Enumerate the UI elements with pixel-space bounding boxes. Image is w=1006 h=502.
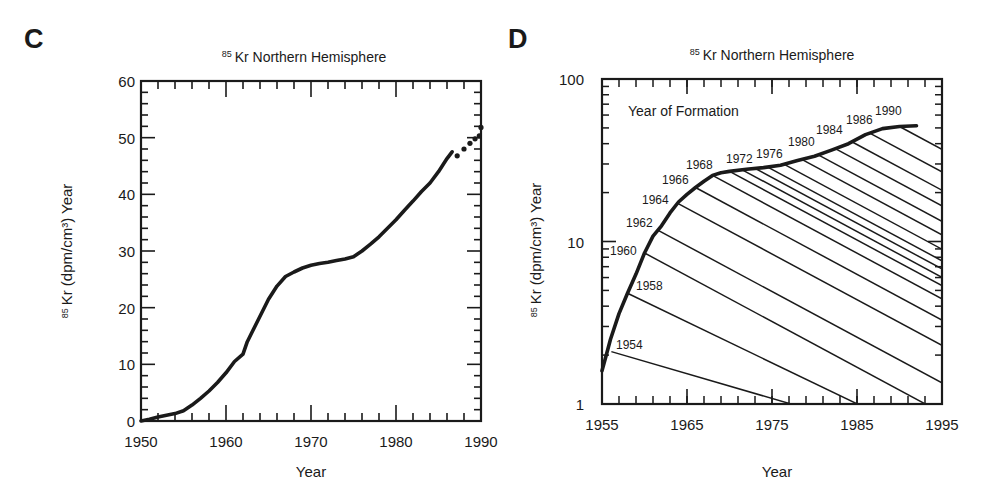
chart-d-annotation: Year of Formation [628, 103, 739, 119]
ylabel-text: Kr (dpm/cm³) Year [527, 183, 544, 305]
formation-year-label: 1968 [686, 158, 713, 172]
chart-c-line [141, 152, 452, 421]
chart-c-frame [141, 81, 481, 421]
x-tick-label: 1985 [840, 416, 873, 433]
y-tick-label: 30 [118, 243, 135, 260]
formation-year-label: 1972 [726, 152, 753, 166]
y-tick-label: 20 [118, 300, 135, 317]
decay-line [836, 149, 959, 215]
data-point [472, 136, 477, 141]
data-point [455, 153, 460, 158]
formation-year-label: 1966 [662, 173, 689, 187]
decay-line [768, 167, 959, 270]
chart-c-title: 85Kr Northern Hemisphere [222, 49, 387, 65]
y-tick-label: 60 [118, 73, 135, 90]
y-tick-label: 0 [127, 413, 135, 430]
chart-d-xlabel: Year [762, 463, 792, 480]
decay-line [785, 165, 959, 259]
y-tick-label: 10 [118, 356, 135, 373]
panel-label-d: D [508, 24, 528, 54]
ylabel-superscript: 85 [529, 307, 539, 317]
formation-year-label: 1976 [756, 147, 783, 161]
formation-year-label: 1964 [642, 193, 669, 207]
chart-panel-d: D 85Kr Northern Hemisphere 1955196519751… [508, 24, 959, 480]
formation-year-label: 1960 [610, 244, 637, 258]
title-text: Kr Northern Hemisphere [235, 49, 387, 65]
chart-c-ticks [141, 81, 481, 421]
chart-d-year-labels: 1954195819601962196419661968197219761980… [610, 104, 902, 352]
formation-year-label: 1980 [788, 135, 815, 149]
decay-line [677, 203, 959, 355]
chart-panel-c: C 85Kr Northern Hemisphere 1950196019701… [24, 24, 498, 480]
formation-year-label: 1958 [636, 279, 663, 293]
y-tick-label: 10 [567, 234, 584, 251]
ylabel-superscript: 85 [60, 308, 70, 318]
chart-c-ylabel: 85Kr (dpm/cm³) Year [58, 184, 75, 319]
decay-line [730, 171, 960, 294]
decay-line [645, 253, 960, 422]
chart-c-tick-labels: 195019601970198019900102030405060 [118, 73, 497, 450]
x-tick-label: 1980 [379, 433, 412, 450]
formation-year-label: 1962 [626, 216, 653, 230]
title-superscript: 85 [690, 47, 700, 57]
data-point [461, 146, 466, 151]
data-point [478, 125, 483, 130]
data-point [467, 141, 472, 146]
x-tick-label: 1975 [755, 416, 788, 433]
formation-year-label: 1954 [616, 338, 643, 352]
decay-line [742, 170, 959, 287]
x-tick-label: 1995 [925, 416, 958, 433]
y-tick-label: 50 [118, 130, 135, 147]
x-tick-label: 1990 [464, 433, 497, 450]
title-superscript: 85 [222, 49, 232, 59]
figure: C 85Kr Northern Hemisphere 1950196019701… [0, 0, 1006, 502]
chart-d-line [602, 126, 917, 371]
formation-year-label: 1990 [875, 104, 902, 118]
x-tick-label: 1950 [124, 433, 157, 450]
chart-c-xlabel: Year [296, 463, 326, 480]
formation-year-label: 1986 [846, 113, 873, 127]
chart-d-title: 85Kr Northern Hemisphere [690, 47, 855, 63]
chart-c-dots [455, 125, 484, 159]
y-tick-label: 1 [576, 396, 584, 413]
x-tick-label: 1970 [294, 433, 327, 450]
decay-line [611, 352, 959, 453]
data-point [477, 133, 482, 138]
panel-label-c: C [24, 24, 44, 54]
x-tick-label: 1955 [585, 416, 618, 433]
y-tick-label: 100 [559, 71, 584, 88]
x-tick-label: 1960 [209, 433, 242, 450]
title-text: Kr Northern Hemisphere [703, 47, 855, 63]
formation-year-label: 1984 [816, 123, 843, 137]
chart-d-ylabel: 85Kr (dpm/cm³) Year [527, 183, 544, 318]
x-tick-label: 1965 [670, 416, 703, 433]
y-tick-label: 40 [118, 186, 135, 203]
ylabel-text: Kr (dpm/cm³) Year [58, 184, 75, 306]
